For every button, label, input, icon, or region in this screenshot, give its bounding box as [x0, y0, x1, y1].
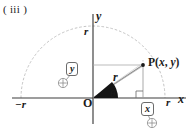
- x-axis-negative-radius-tick-label: −r: [15, 99, 26, 110]
- y-axis-radius-tick-label: r: [84, 26, 88, 37]
- origin-label: O: [83, 97, 92, 109]
- y-axis-label: y: [96, 10, 101, 22]
- boxed-label-x: x: [141, 102, 154, 116]
- radius-label: r: [113, 71, 118, 83]
- x-axis-radius-tick-label: r: [166, 97, 170, 108]
- point-p-name: P: [148, 56, 155, 68]
- panel-label: ( iii ): [3, 4, 27, 15]
- point-p-label: P(x, y): [148, 57, 179, 69]
- right-angle-marker: [136, 91, 143, 98]
- x-axis-label: x: [178, 93, 184, 105]
- angle-theta-label: θ: [110, 88, 115, 99]
- trigonometry-diagram: ( iii ) y x O r r −r P(x, y) r θ y x: [0, 0, 193, 138]
- point-p-marker: [141, 63, 145, 67]
- point-close-paren: ): [175, 56, 179, 68]
- boxed-label-y: y: [66, 62, 78, 76]
